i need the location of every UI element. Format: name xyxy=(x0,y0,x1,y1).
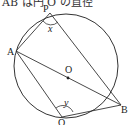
angle-label-y: y xyxy=(63,97,69,108)
label-p: P xyxy=(43,3,49,14)
label-b: B xyxy=(121,104,128,115)
segment-qa xyxy=(16,51,62,117)
angle-label-x: x xyxy=(47,23,53,34)
label-a: A xyxy=(7,46,15,57)
circle-diagram: P A B Q O x y xyxy=(0,0,129,125)
center-point xyxy=(67,77,70,80)
segment-pb xyxy=(50,13,121,105)
segment-pa xyxy=(16,13,50,51)
label-o: O xyxy=(65,64,72,75)
segment-qb xyxy=(62,105,121,117)
label-q: Q xyxy=(58,117,66,125)
